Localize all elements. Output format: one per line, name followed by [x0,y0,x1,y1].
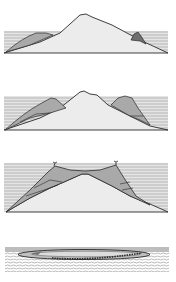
atoll-formation-diagram [0,0,176,282]
panel-stage-3 [4,161,168,212]
panel-stage-1 [4,14,168,53]
panel-stage-2 [4,91,168,130]
panel-stage-4 [5,247,169,272]
lagoon [32,251,140,257]
